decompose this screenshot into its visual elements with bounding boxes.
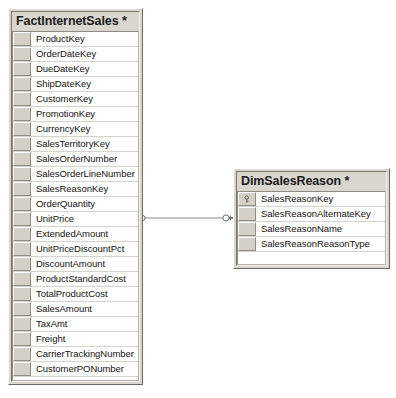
- field-row[interactable]: SalesReasonName: [238, 222, 385, 237]
- field-selector-cell[interactable]: [13, 32, 31, 46]
- field-row[interactable]: SalesOrderLineNumber: [13, 167, 138, 182]
- field-row[interactable]: CustomerPONumber: [13, 362, 138, 377]
- field-row[interactable]: DueDateKey: [13, 62, 138, 77]
- field-name: TaxAmt: [31, 317, 138, 331]
- field-row[interactable]: ExtendedAmount: [13, 227, 138, 242]
- field-row[interactable]: SalesOrderNumber: [13, 152, 138, 167]
- field-selector-cell[interactable]: [238, 222, 256, 236]
- field-row[interactable]: Freight: [13, 332, 138, 347]
- field-name: SalesReasonKey: [31, 182, 138, 196]
- field-selector-cell[interactable]: [13, 122, 31, 136]
- field-name: TotalProductCost: [31, 287, 138, 301]
- field-name: CustomerPONumber: [31, 362, 138, 376]
- field-selector-cell[interactable]: [13, 107, 31, 121]
- field-row[interactable]: TotalProductCost: [13, 287, 138, 302]
- field-selector-cell[interactable]: [13, 182, 31, 196]
- field-name: DueDateKey: [31, 62, 138, 76]
- field-name: CarrierTrackingNumber: [31, 347, 138, 361]
- field-row[interactable]: SalesReasonKey: [238, 192, 385, 207]
- field-selector-cell[interactable]: [13, 287, 31, 301]
- field-selector-cell[interactable]: [13, 272, 31, 286]
- field-selector-cell[interactable]: [13, 362, 31, 376]
- field-row[interactable]: TaxAmt: [13, 317, 138, 332]
- field-selector-cell[interactable]: [13, 92, 31, 106]
- field-name: SalesAmount: [31, 302, 138, 316]
- field-selector-cell[interactable]: [13, 347, 31, 361]
- field-row[interactable]: UnitPrice: [13, 212, 138, 227]
- field-row[interactable]: CurrencyKey: [13, 122, 138, 137]
- field-name: ProductStandardCost: [31, 272, 138, 286]
- field-row[interactable]: SalesAmount: [13, 302, 138, 317]
- field-name: ExtendedAmount: [31, 227, 138, 241]
- entity-dim-sales-reason[interactable]: DimSalesReason * SalesReasonKeySalesReas…: [233, 168, 390, 269]
- field-selector-cell[interactable]: [13, 167, 31, 181]
- field-selector-cell[interactable]: [238, 237, 256, 251]
- field-selector-cell[interactable]: [13, 152, 31, 166]
- field-selector-cell[interactable]: [13, 197, 31, 211]
- field-selector-cell[interactable]: [13, 137, 31, 151]
- field-grid-empty-area[interactable]: [13, 377, 138, 381]
- field-list-fact-internet-sales: ProductKeyOrderDateKeyDueDateKeyShipDate…: [13, 32, 138, 377]
- field-name: SalesOrderLineNumber: [31, 167, 138, 181]
- field-row[interactable]: DiscountAmount: [13, 257, 138, 272]
- field-selector-cell[interactable]: [13, 62, 31, 76]
- field-name: UnitPrice: [31, 212, 138, 226]
- field-selector-cell[interactable]: [13, 227, 31, 241]
- field-row[interactable]: ShipDateKey: [13, 77, 138, 92]
- field-list-dim-sales-reason: SalesReasonKeySalesReasonAlternateKeySal…: [238, 192, 385, 252]
- field-row[interactable]: OrderDateKey: [13, 47, 138, 62]
- field-name: CurrencyKey: [31, 122, 138, 136]
- field-selector-cell[interactable]: [13, 47, 31, 61]
- primary-key-icon[interactable]: [238, 192, 256, 206]
- field-name: SalesReasonKey: [256, 192, 385, 206]
- field-name: UnitPriceDiscountPct: [31, 242, 138, 256]
- field-row[interactable]: ProductStandardCost: [13, 272, 138, 287]
- entity-title-dim-sales-reason: DimSalesReason *: [237, 172, 386, 191]
- field-name: SalesTerritoryKey: [31, 137, 138, 151]
- field-row[interactable]: OrderQuantity: [13, 197, 138, 212]
- field-name: SalesReasonName: [256, 222, 385, 236]
- field-name: OrderQuantity: [31, 197, 138, 211]
- field-grid-fact-internet-sales[interactable]: ProductKeyOrderDateKeyDueDateKeyShipDate…: [12, 31, 139, 381]
- field-name: ProductKey: [31, 32, 138, 46]
- field-row[interactable]: SalesReasonAlternateKey: [238, 207, 385, 222]
- field-row[interactable]: UnitPriceDiscountPct: [13, 242, 138, 257]
- field-name: SalesReasonAlternateKey: [256, 207, 385, 221]
- field-selector-cell[interactable]: [13, 317, 31, 331]
- field-name: OrderDateKey: [31, 47, 138, 61]
- diagram-canvas[interactable]: FactInternetSales * ProductKeyOrderDateK…: [0, 0, 396, 398]
- field-name: Freight: [31, 332, 138, 346]
- field-selector-cell[interactable]: [13, 302, 31, 316]
- field-grid-dim-sales-reason[interactable]: SalesReasonKeySalesReasonAlternateKeySal…: [237, 191, 386, 265]
- field-grid-empty-area[interactable]: [238, 252, 385, 265]
- field-row[interactable]: CustomerKey: [13, 92, 138, 107]
- relationship-one-marker: [223, 215, 233, 221]
- entity-fact-internet-sales[interactable]: FactInternetSales * ProductKeyOrderDateK…: [8, 8, 143, 385]
- field-selector-cell[interactable]: [238, 207, 256, 221]
- field-name: DiscountAmount: [31, 257, 138, 271]
- field-name: SalesOrderNumber: [31, 152, 138, 166]
- field-name: SalesReasonReasonType: [256, 237, 385, 251]
- field-row[interactable]: SalesReasonKey: [13, 182, 138, 197]
- field-selector-cell[interactable]: [13, 212, 31, 226]
- field-selector-cell[interactable]: [13, 77, 31, 91]
- field-row[interactable]: SalesTerritoryKey: [13, 137, 138, 152]
- field-row[interactable]: ProductKey: [13, 32, 138, 47]
- field-row[interactable]: CarrierTrackingNumber: [13, 347, 138, 362]
- field-row[interactable]: SalesReasonReasonType: [238, 237, 385, 252]
- entity-title-fact-internet-sales: FactInternetSales *: [12, 12, 139, 31]
- field-selector-cell[interactable]: [13, 332, 31, 346]
- field-row[interactable]: PromotionKey: [13, 107, 138, 122]
- field-name: ShipDateKey: [31, 77, 138, 91]
- field-selector-cell[interactable]: [13, 242, 31, 256]
- field-name: CustomerKey: [31, 92, 138, 106]
- field-selector-cell[interactable]: [13, 257, 31, 271]
- field-name: PromotionKey: [31, 107, 138, 121]
